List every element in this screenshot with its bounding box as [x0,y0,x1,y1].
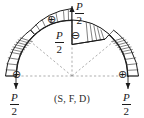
apex-load-numerator: P [75,1,84,13]
minus-circle-icon: ⊖ [70,30,81,41]
center-load-denominator: 2 [55,44,64,56]
right-reaction-denominator: 2 [122,106,131,118]
figure-caption: (S, F, D) [0,93,144,104]
center-load-numerator: P [55,30,64,42]
apex-load-label: P 2 [75,1,84,26]
minus-circle-icon: ⊖ [11,69,22,80]
center-load-label: P 2 [55,30,64,55]
radial-line-left-quarter [31,42,73,77]
plus-circle-icon: ⊕ [117,69,128,80]
radial-line-right-quarter [72,42,114,77]
apex-load-denominator: 2 [75,15,84,27]
plus-circle-icon: ⊕ [46,14,57,25]
left-reaction-denominator: 2 [10,106,19,118]
figure-container: ⊕ ⊖ ⊖ ⊕ P 2 P 2 P 2 P 2 (S, F, D) [0,0,144,118]
